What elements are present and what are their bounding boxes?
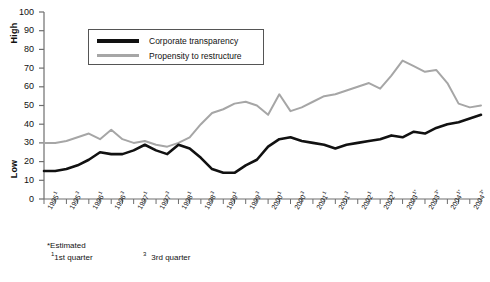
footnote-quarter-definitions: 11st quarter 33rd quarter [47,252,347,263]
x-axis-tick-label: 19961 [91,191,107,211]
chart-legend: Corporate transparency Propensity to res… [88,29,264,65]
x-axis-tick-label: 19951 [46,191,62,211]
legend-swatch-black-icon [97,39,139,43]
footnote-third-quarter: 33rd quarter [143,252,190,263]
x-axis-tick-label: 20001 [270,191,286,211]
x-axis-tick-label: 20033* [427,189,444,211]
x-axis-tick-label: 20011 [315,191,331,211]
legend-label-propensity-to-restructure: Propensity to restructure [149,51,242,61]
legend-label-corporate-transparency: Corporate transparency [149,36,238,46]
footnote-q3-marker: 3 [143,251,146,257]
footnote-estimated: *Estimated [47,240,347,251]
legend-swatch-gray-icon [97,54,139,57]
footnote-q1-text: 1st quarter [54,253,92,262]
legend-item-propensity-to-restructure: Propensity to restructure [89,48,265,63]
footnote-q3-text: 3rd quarter [151,253,190,262]
x-axis-tick-label: 20043* [472,189,489,211]
x-axis-tick-label: 19991 [225,191,241,211]
x-axis-tick-label: 19993 [248,191,264,211]
x-axis-tick-label: 20013 [337,191,353,211]
x-axis-tick-label: 20003 [293,191,309,211]
x-axis-tick-label: 20023 [382,191,398,211]
chart-footnotes: *Estimated 11st quarter 33rd quarter [47,240,347,263]
x-axis-tick-label: 20031* [405,189,422,211]
x-axis-tick-label: 19983 [203,191,219,211]
x-axis-tick-label: 19981 [180,191,196,211]
x-axis-tick-label: 19973 [158,191,174,211]
x-axis-tick-label: 20041* [449,189,466,211]
chart-container: High Low 1009080706050403020100 19951199… [0,0,490,282]
footnote-first-quarter: 11st quarter [51,252,143,263]
x-axis-tick-label: 19953 [68,191,84,211]
x-axis-tick-label: 19971 [136,191,152,211]
legend-item-corporate-transparency: Corporate transparency [89,33,265,48]
x-axis-tick-label: 19963 [113,191,129,211]
x-axis-tick-label: 20021 [360,191,376,211]
